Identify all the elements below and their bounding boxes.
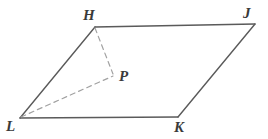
edge-JK: [178, 24, 255, 117]
edge-KL: [20, 117, 178, 118]
geometry-figure: H J K L P: [0, 0, 268, 139]
edge-HJ: [95, 24, 255, 27]
solid-edges: [20, 24, 255, 118]
figure-canvas: [0, 0, 268, 139]
edge-LH: [20, 27, 95, 118]
vertex-label-K: K: [174, 120, 184, 135]
vertex-label-L: L: [6, 119, 15, 134]
segment-HP: [95, 28, 113, 74]
dashed-segments: [21, 28, 113, 117]
segment-LP: [21, 76, 113, 117]
vertex-label-P: P: [119, 69, 128, 84]
vertex-label-H: H: [83, 8, 95, 23]
vertex-label-J: J: [243, 6, 251, 21]
